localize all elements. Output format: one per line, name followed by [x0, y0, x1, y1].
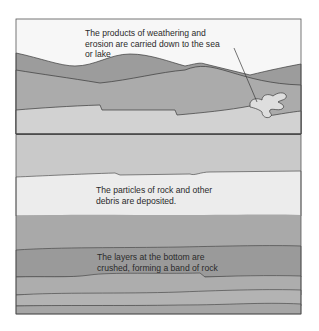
weathering-caption-line3: or lake	[85, 49, 220, 60]
sediment-panel	[16, 135, 301, 314]
crush-caption-line2: crushed, forming a band of rock	[97, 263, 218, 274]
deposit-caption-line1: The particles of rock and other	[96, 185, 212, 196]
crush-caption: The layers at the bottom are crushed, fo…	[97, 252, 218, 273]
sediment-top-layer	[16, 135, 301, 177]
deposit-caption-line2: debris are deposited.	[96, 196, 212, 207]
middle-layer	[16, 215, 301, 250]
weathering-caption-line2: erosion are carried down to the sea	[85, 39, 220, 50]
crush-caption-line1: The layers at the bottom are	[97, 252, 218, 263]
weathering-caption: The products of weathering and erosion a…	[85, 28, 220, 60]
deposit-caption: The particles of rock and other debris a…	[96, 185, 212, 206]
weathering-caption-line1: The products of weathering and	[85, 28, 220, 39]
